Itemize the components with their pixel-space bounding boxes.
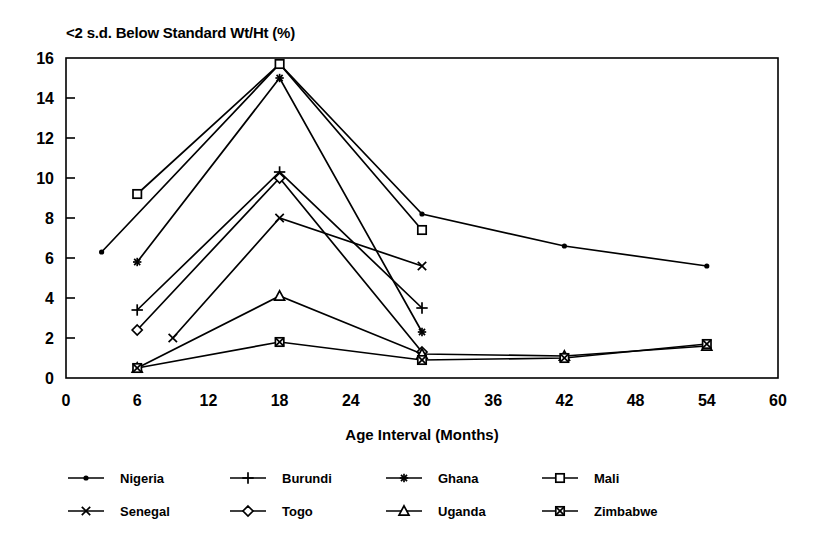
legend-label: Zimbabwe: [594, 504, 658, 519]
series-nigeria: [99, 61, 709, 268]
legend-entry-senegal[interactable]: Senegal: [68, 504, 170, 519]
y-tick-label: 6: [45, 250, 54, 267]
legend-label: Togo: [282, 504, 313, 519]
legend-label: Mali: [594, 471, 619, 486]
legend-label: Senegal: [120, 504, 170, 519]
x-tick-label: 12: [200, 392, 218, 409]
legend-entry-mali[interactable]: Mali: [542, 471, 619, 486]
legend-entry-zimbabwe[interactable]: Zimbabwe: [542, 504, 658, 519]
x-tick-label: 54: [698, 392, 716, 409]
series-line: [137, 178, 422, 352]
marker-dot: [83, 475, 88, 480]
y-tick-label: 0: [45, 370, 54, 387]
series-mali: [133, 60, 426, 234]
marker-square: [556, 474, 564, 482]
series-zimbabwe: [133, 338, 711, 372]
y-tick-label: 2: [45, 330, 54, 347]
marker-dot: [419, 211, 424, 216]
marker-triangle: [275, 291, 285, 300]
y-tick-label: 8: [45, 210, 54, 227]
x-tick-label: 18: [271, 392, 289, 409]
x-tick-label: 24: [342, 392, 360, 409]
y-tick-label: 16: [36, 50, 54, 67]
x-tick-label: 30: [413, 392, 431, 409]
x-tick-label: 48: [627, 392, 645, 409]
marker-square: [133, 190, 141, 198]
legend-label: Nigeria: [120, 471, 165, 486]
legend-entry-nigeria[interactable]: Nigeria: [68, 471, 165, 486]
marker-square: [275, 60, 283, 68]
y-tick-label: 10: [36, 170, 54, 187]
y-tick-label: 4: [45, 290, 54, 307]
x-tick-label: 36: [484, 392, 502, 409]
marker-diamond: [243, 506, 253, 516]
series-line: [102, 64, 707, 266]
legend-entry-burundi[interactable]: Burundi: [230, 471, 332, 486]
legend-entry-uganda[interactable]: Uganda: [386, 504, 486, 519]
y-tick-label: 12: [36, 130, 54, 147]
x-tick-label: 60: [769, 392, 787, 409]
legend-label: Ghana: [438, 471, 479, 486]
legend-label: Burundi: [282, 471, 332, 486]
chart-legend: NigeriaBurundiGhanaMaliSenegalTogoUganda…: [68, 471, 658, 519]
chart-figure: <2 s.d. Below Standard Wt/Ht (%) 0246810…: [0, 0, 826, 547]
chart-plot-area: 024681012141606121824303642485460Age Int…: [0, 0, 826, 547]
y-tick-label: 14: [36, 90, 54, 107]
x-axis-title: Age Interval (Months): [345, 426, 498, 443]
series-togo: [132, 173, 427, 357]
x-tick-label: 42: [556, 392, 574, 409]
legend-entry-ghana[interactable]: Ghana: [386, 471, 479, 486]
marker-dot: [99, 249, 104, 254]
x-tick-label: 6: [133, 392, 142, 409]
marker-dot: [704, 263, 709, 268]
x-tick-label: 0: [62, 392, 71, 409]
legend-entry-togo[interactable]: Togo: [230, 504, 313, 519]
series-line: [173, 218, 422, 338]
marker-dot: [562, 243, 567, 248]
series-line: [137, 64, 422, 230]
series-senegal: [169, 214, 427, 342]
legend-label: Uganda: [438, 504, 486, 519]
marker-square: [418, 226, 426, 234]
